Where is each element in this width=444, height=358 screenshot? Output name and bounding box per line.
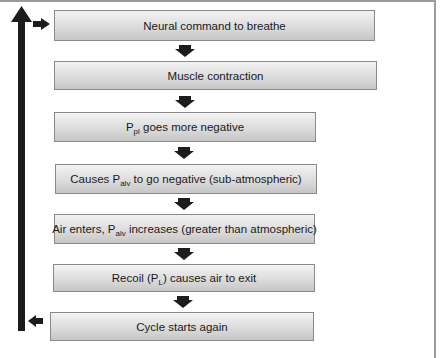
step-6-text: Recoil (PL) causes air to exit <box>112 272 256 284</box>
step-4-text: Causes Palv to go negative (sub-atmosphe… <box>70 173 301 185</box>
loop-right-arrow-icon <box>33 18 50 30</box>
down-arrow-icon <box>175 45 195 57</box>
step-box-1: Neural command to breathe <box>54 10 375 41</box>
step-3-text: Ppl goes more negative <box>126 121 244 133</box>
down-arrow-icon <box>173 296 193 308</box>
down-arrow-icon <box>174 198 194 210</box>
step-box-2: Muscle contraction <box>54 61 377 90</box>
step-box-7: Cycle starts again <box>50 312 314 341</box>
loop-up-arrowhead-icon <box>11 6 32 22</box>
step-box-5: Air enters, Palv increases (greater than… <box>54 214 315 244</box>
down-arrow-icon <box>175 96 195 108</box>
step-2-text: Muscle contraction <box>168 70 264 82</box>
down-arrow-icon <box>174 147 194 159</box>
loop-back-bar <box>18 20 25 331</box>
step-box-6: Recoil (PL) causes air to exit <box>53 264 315 292</box>
step-box-3: Ppl goes more negative <box>54 112 316 142</box>
step-5-text: Air enters, Palv increases (greater than… <box>52 223 317 235</box>
loop-left-arrow-icon <box>28 315 43 327</box>
step-box-4: Causes Palv to go negative (sub-atmosphe… <box>55 164 317 194</box>
step-1-text: Neural command to breathe <box>143 20 286 32</box>
step-7-text: Cycle starts again <box>136 321 227 333</box>
down-arrow-icon <box>174 248 194 260</box>
